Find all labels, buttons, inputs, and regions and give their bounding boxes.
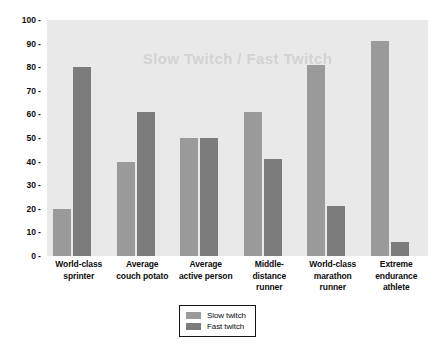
bar-fast-twitch (264, 159, 282, 256)
bar-fast-twitch (200, 138, 218, 256)
bar-slow-twitch (371, 41, 389, 256)
bar-group (365, 20, 429, 256)
x-axis-label-line: endurance (357, 271, 437, 283)
legend-item-fast-twitch: Fast twitch (186, 321, 246, 332)
x-axis-label-line: athlete (357, 282, 437, 294)
legend-swatch-fast-twitch (186, 323, 201, 330)
y-axis-tick-100: 100- (22, 14, 45, 26)
y-axis-tick-70: 70- (27, 85, 45, 97)
bar-slow-twitch (180, 138, 198, 256)
x-axis-label-line: Extreme (357, 259, 437, 271)
muscle-fiber-bar-chart: Percent of total muscle 100-90-80-70-60-… (0, 0, 437, 348)
bar-slow-twitch (53, 209, 71, 256)
bar-fast-twitch (137, 112, 155, 256)
y-axis-tick-60: 60- (27, 108, 45, 120)
y-axis-tick-mark: - (38, 179, 45, 191)
y-axis-tick-10: 10- (27, 226, 45, 238)
y-axis-tick-mark: - (38, 14, 45, 26)
y-axis-tick-mark: - (38, 108, 45, 120)
legend-label: Fast twitch (207, 322, 244, 331)
bar-slow-twitch (244, 112, 262, 256)
bar-group (301, 20, 365, 256)
bar-group (47, 20, 111, 256)
y-axis-tick-labels: 100-90-80-70-60-50-40-30-20-10-0- (12, 20, 45, 256)
y-axis-tick-mark: - (38, 61, 45, 73)
y-axis-tick-mark: - (38, 156, 45, 168)
bar-fast-twitch (391, 242, 409, 256)
bar-series-container (47, 20, 428, 256)
y-axis-tick-mark: - (38, 85, 45, 97)
bar-slow-twitch (117, 162, 135, 256)
chart-legend: Slow twitchFast twitch (179, 305, 256, 337)
x-axis-category-labels: World-classsprinterAveragecouch potatoAv… (47, 259, 428, 301)
bar-fast-twitch (327, 206, 345, 256)
bar-group (174, 20, 238, 256)
y-axis-tick-40: 40- (27, 156, 45, 168)
y-axis-tick-mark: - (38, 203, 45, 215)
y-axis-tick-30: 30- (27, 179, 45, 191)
legend-item-slow-twitch: Slow twitch (186, 310, 246, 321)
legend-swatch-slow-twitch (186, 312, 201, 319)
y-axis-tick-20: 20- (27, 203, 45, 215)
y-axis-tick-mark: - (38, 38, 45, 50)
bar-fast-twitch (73, 67, 91, 256)
y-axis-tick-50: 50- (27, 132, 45, 144)
x-axis-label-5: Extremeenduranceathlete (357, 259, 437, 294)
plot-area: Slow Twitch / Fast Twitch (47, 20, 428, 256)
bar-group (111, 20, 175, 256)
bar-group (238, 20, 302, 256)
legend-label: Slow twitch (207, 311, 246, 320)
y-axis-tick-90: 90- (27, 38, 45, 50)
y-axis-tick-mark: - (38, 132, 45, 144)
bar-slow-twitch (307, 65, 325, 256)
y-axis-tick-80: 80- (27, 61, 45, 73)
y-axis-tick-mark: - (38, 226, 45, 238)
